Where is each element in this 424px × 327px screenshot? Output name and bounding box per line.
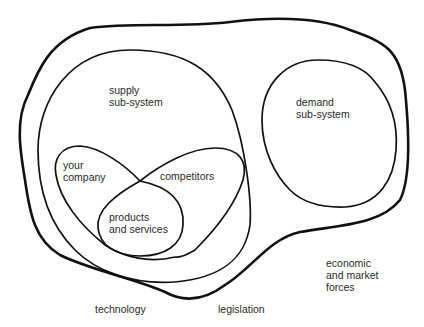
technology-label: technology [95, 303, 146, 315]
legislation-label: legislation [218, 303, 265, 315]
supply-subsystem-label: supply sub-system [109, 84, 163, 108]
demand-subsystem-boundary [262, 60, 396, 207]
products-services-label: products and services [109, 211, 168, 235]
competitors-label: competitors [160, 170, 214, 182]
competitors-boundary [140, 148, 244, 257]
your-company-label: your company [63, 159, 106, 183]
demand-subsystem-label: demand sub-system [296, 96, 350, 120]
economic-market-forces-label: economic and market forces [326, 257, 379, 293]
